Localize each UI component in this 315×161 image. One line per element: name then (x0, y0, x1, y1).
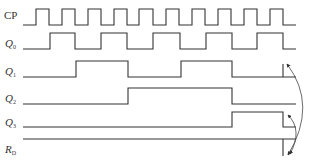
waveform-cp (23, 9, 296, 25)
waveform-rd (23, 139, 296, 156)
waveform-q2 (23, 88, 296, 104)
waveform-canvas (0, 0, 315, 161)
waveform-q0 (23, 33, 296, 49)
waveform-q3 (23, 112, 296, 127)
waveform-q1 (23, 61, 296, 77)
